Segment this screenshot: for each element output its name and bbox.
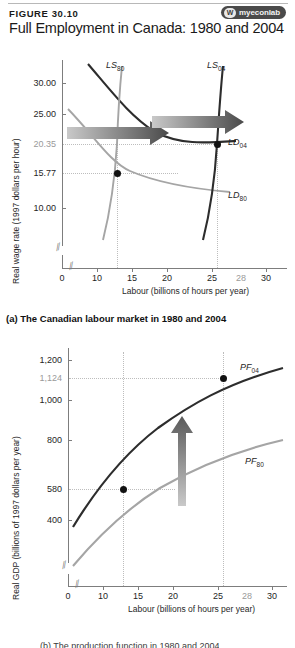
curve-label-ls04: LS04 — [207, 60, 225, 72]
panel-b-chart: Real GDP (billions of 1997 dollars per y… — [0, 338, 295, 628]
curve-label-ld80-text: LD — [228, 190, 240, 200]
curve-label-ls04-text: LS — [207, 60, 218, 70]
panel-b-xlabel-10: 10 — [93, 591, 113, 601]
panel-a-chart: Real wage rate (1997 dollars per hour) ∕… — [0, 52, 295, 304]
panel-b-xtick-20 — [173, 586, 174, 590]
curve-label-ld04-sub: 04 — [240, 142, 247, 149]
myeconlab-badge-label: myeconlab — [239, 8, 280, 17]
panel-a-xlabel-28: 28 — [231, 273, 251, 283]
panel-b-point-1980 — [120, 486, 127, 493]
figure-title: Full Employment in Canada: 1980 and 2004 — [9, 20, 284, 36]
curve-label-ls80-sub: 80 — [117, 65, 124, 72]
panel-a-curves — [0, 52, 295, 304]
header-divider — [8, 3, 288, 4]
curve-label-pf04-sub: 04 — [252, 367, 259, 374]
panel-a-xlabel-15: 15 — [122, 273, 142, 283]
panel-b-xlabel-0: 0 — [58, 591, 78, 601]
panel-b-xlabel-28: 28 — [237, 591, 257, 601]
curve-label-pf80-sub: 80 — [257, 461, 264, 468]
curve-label-ls80-text: LS — [106, 60, 117, 70]
panel-b-curves — [0, 338, 295, 628]
panel-b-xtick-10 — [103, 586, 104, 590]
panel-b-x-axis-title: Labour (billions of hours per year) — [128, 604, 255, 614]
panel-b-point-2004 — [220, 375, 227, 382]
curve-label-ld04: LD04 — [228, 137, 247, 149]
panel-a-xtick-30 — [266, 268, 267, 272]
figure-number: FIGURE 30.10 — [9, 8, 79, 19]
panel-a-shift-arrow-right-2 — [152, 110, 244, 134]
panel-b-xtick-30 — [272, 586, 273, 590]
curve-label-ls04-sub: 04 — [218, 65, 225, 72]
panel-a-xtick-15 — [132, 268, 133, 272]
panel-b-xlabel-15: 15 — [128, 591, 148, 601]
curve-ls04 — [203, 66, 223, 240]
panel-a-xlabel-25: 25 — [202, 273, 222, 283]
panel-a-point-1980 — [114, 170, 121, 177]
panel-b-xlabel-20: 20 — [163, 591, 183, 601]
curve-label-pf80-text: PF — [245, 456, 257, 466]
myeconlab-badge[interactable]: W myeconlab — [221, 6, 286, 19]
panel-a-xtick-20 — [167, 268, 168, 272]
panel-a-xlabel-0: 0 — [52, 273, 72, 283]
curve-label-pf04-text: PF — [240, 362, 252, 372]
panel-a-caption: (a) The Canadian labour market in 1980 a… — [6, 313, 226, 324]
curve-label-ls80: LS80 — [106, 60, 124, 72]
panel-a-xlabel-20: 20 — [157, 273, 177, 283]
panel-b-xlabel-25: 25 — [208, 591, 228, 601]
curve-label-ld80-sub: 80 — [240, 195, 247, 202]
myeconlab-logo-icon: W — [224, 8, 236, 18]
curve-label-ld80: LD80 — [228, 190, 247, 202]
panel-b-shift-arrow-up — [171, 416, 193, 506]
panel-b-xtick-25 — [218, 586, 219, 590]
curve-label-pf04: PF04 — [240, 362, 259, 374]
panel-a-xlabel-10: 10 — [87, 273, 107, 283]
panel-a-point-2004 — [214, 141, 221, 148]
panel-a-xlabel-30: 30 — [256, 273, 276, 283]
panel-a-xtick-10 — [97, 268, 98, 272]
panel-a-xtick-25 — [212, 268, 213, 272]
curve-label-pf80: PF80 — [245, 456, 264, 468]
panel-b-xtick-15 — [138, 586, 139, 590]
panel-a-x-axis-title: Labour (billions of hours per year) — [122, 286, 249, 296]
curve-label-ld04-text: LD — [228, 137, 240, 147]
panel-b-caption: (b) The production function in 1980 and … — [40, 641, 219, 648]
panel-b-xlabel-30: 30 — [262, 591, 282, 601]
